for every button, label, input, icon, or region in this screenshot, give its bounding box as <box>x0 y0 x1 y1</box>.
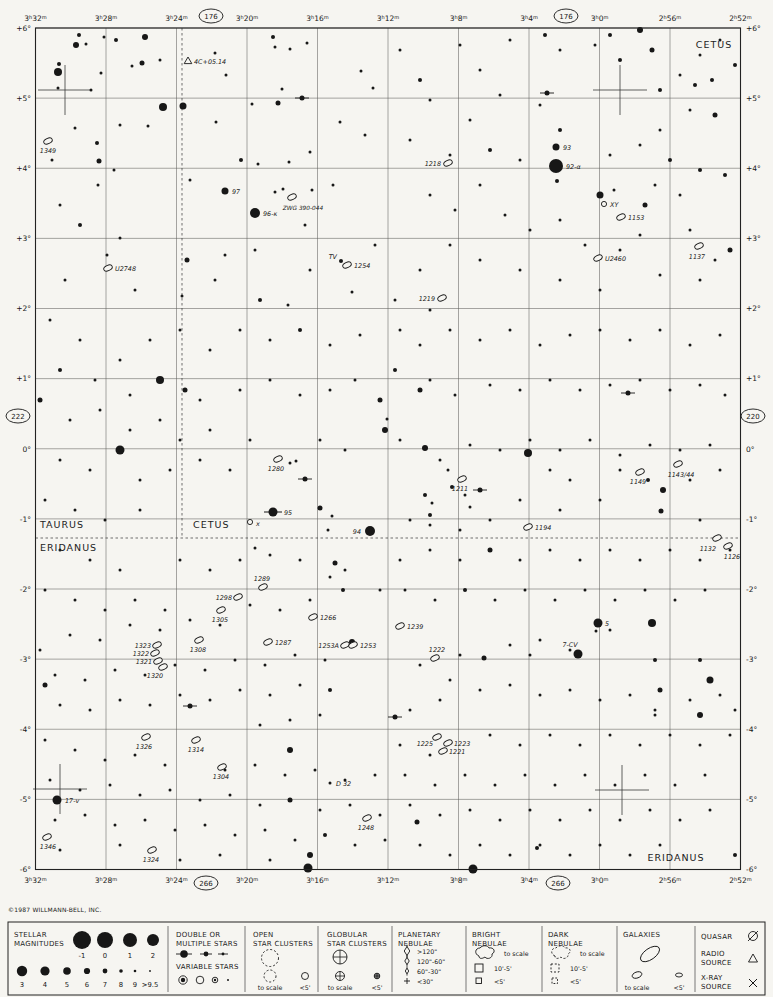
star <box>459 559 462 562</box>
star <box>422 445 428 451</box>
star <box>609 629 612 632</box>
star <box>549 159 563 173</box>
star <box>393 368 397 372</box>
object-label: 1211 <box>452 485 468 493</box>
star <box>58 368 62 372</box>
legend-title-galaxies: GALAXIES <box>623 931 660 939</box>
dec-label-left: +2° <box>16 304 31 313</box>
star <box>439 459 442 462</box>
star <box>329 344 332 347</box>
star <box>354 379 357 382</box>
star <box>584 244 587 247</box>
star <box>54 819 57 822</box>
legend-label: to scale <box>580 950 605 957</box>
object-label: 1289 <box>254 575 270 583</box>
star <box>579 744 582 747</box>
double-star <box>269 508 278 517</box>
star <box>499 819 502 822</box>
star <box>251 103 254 106</box>
star <box>434 599 437 602</box>
galaxy-symbol <box>694 242 704 251</box>
star <box>179 439 182 442</box>
star <box>399 329 402 332</box>
star <box>710 78 714 82</box>
legend-title-globular-clusters: STAR CLUSTERS <box>327 940 387 948</box>
star <box>599 329 602 332</box>
open-cluster-symbol <box>302 973 309 980</box>
star <box>449 154 452 157</box>
legend-title-quasar: QUASAR <box>701 933 732 941</box>
star <box>479 184 482 187</box>
star <box>289 719 292 722</box>
star <box>269 554 272 557</box>
star <box>429 549 432 552</box>
star <box>439 814 442 817</box>
star <box>654 714 657 717</box>
star <box>679 194 682 197</box>
star <box>733 853 737 857</box>
adjacent-chart-number: 220 <box>746 413 759 421</box>
star <box>164 609 167 612</box>
star <box>399 744 402 747</box>
star <box>519 744 522 747</box>
star <box>479 844 482 847</box>
star <box>209 429 212 432</box>
star <box>282 188 285 191</box>
star <box>674 599 677 602</box>
object-label: 1346 <box>40 843 56 851</box>
star <box>288 798 293 803</box>
star <box>459 44 462 47</box>
star <box>354 844 357 847</box>
star <box>609 734 612 737</box>
star <box>423 493 427 497</box>
ra-label-top: 3h4m <box>520 14 538 24</box>
star <box>169 789 172 792</box>
star <box>689 109 692 112</box>
variable-star-symbol <box>227 979 229 981</box>
legend-label: <5' <box>299 984 310 991</box>
ra-label-bottom: 3h28m <box>95 876 118 886</box>
star <box>99 409 102 412</box>
star <box>134 754 137 757</box>
star <box>559 219 562 222</box>
galaxy-symbol <box>437 294 447 303</box>
star <box>489 734 492 737</box>
star <box>489 519 492 522</box>
star <box>524 589 527 592</box>
star <box>594 619 603 628</box>
star <box>697 712 703 718</box>
star <box>144 819 147 822</box>
star <box>279 609 282 612</box>
object-label: 1137 <box>689 253 705 261</box>
star <box>449 329 452 332</box>
star <box>609 384 612 387</box>
star <box>289 462 292 465</box>
star <box>419 664 422 667</box>
star <box>509 684 512 687</box>
star <box>129 624 132 627</box>
dec-label-right: -3° <box>746 655 757 664</box>
star <box>499 94 502 97</box>
dec-label-left: -6° <box>20 865 31 874</box>
object-label: 93 <box>563 144 571 152</box>
constellation-label: CETUS <box>696 39 732 50</box>
star <box>113 169 116 172</box>
star <box>714 259 717 262</box>
star <box>311 189 314 192</box>
star <box>104 759 107 762</box>
dec-label-right: 0° <box>746 445 755 454</box>
star <box>119 844 122 847</box>
object-label: 1324 <box>143 856 159 864</box>
variable-star <box>247 519 252 524</box>
galaxy-symbol <box>194 636 204 645</box>
star <box>569 854 572 857</box>
magnitude-circle <box>63 967 71 975</box>
star <box>449 244 452 247</box>
star <box>569 479 572 482</box>
star <box>529 439 532 442</box>
star <box>539 639 542 642</box>
star <box>274 191 277 194</box>
galaxy-symbol <box>712 534 722 543</box>
magnitude-value: 3 <box>20 981 24 989</box>
planetary-nebula-symbol <box>405 957 409 964</box>
